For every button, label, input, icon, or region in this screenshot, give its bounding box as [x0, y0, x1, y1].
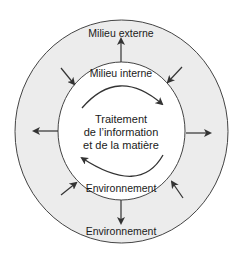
center-line-3: et de la matière [61, 139, 181, 153]
center-line-1: Traitement [61, 113, 181, 127]
outer-bottom-label: Environnement [71, 225, 171, 237]
outer-top-label: Milieu externe [71, 27, 171, 39]
inner-top-label: Milieu interne [71, 67, 171, 79]
center-line-2: de l’information [61, 126, 181, 140]
inner-bottom-label: Environnement [71, 182, 171, 194]
